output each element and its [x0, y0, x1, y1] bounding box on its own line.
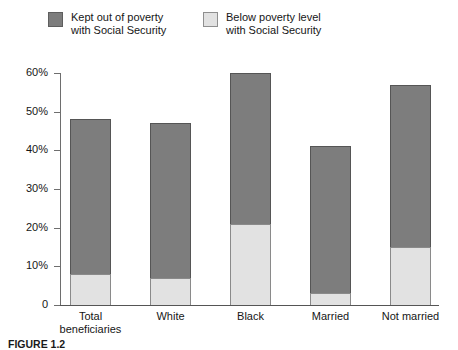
figure-number: FIGURE 1.2	[8, 338, 65, 350]
category-label-line: Not married	[382, 310, 439, 322]
bar-segment-kept-out-of-poverty	[390, 85, 431, 247]
x-axis-category-label: Not married	[351, 310, 458, 323]
bar-group	[310, 146, 351, 305]
bar-segment-below-poverty-level	[390, 247, 431, 305]
y-axis-tick	[54, 73, 60, 74]
bar-group	[150, 123, 191, 305]
figure-caption: FIGURE 1.2	[8, 338, 65, 350]
y-axis-tick-label: 20%	[2, 222, 48, 233]
bar-group	[390, 85, 431, 305]
category-label-line: Black	[237, 310, 264, 322]
y-axis-tick-label: 30%	[2, 183, 48, 194]
y-axis-tick-label: 0	[2, 299, 48, 310]
y-axis-tick-label: 50%	[2, 106, 48, 117]
bar-segment-below-poverty-level	[310, 293, 351, 305]
y-axis-tick-label: 40%	[2, 144, 48, 155]
bar-segment-below-poverty-level	[150, 278, 191, 305]
y-axis-tick	[54, 266, 60, 267]
y-axis-tick	[54, 189, 60, 190]
bar-segment-kept-out-of-poverty	[70, 119, 111, 274]
category-label-line: White	[156, 310, 184, 322]
bar-segment-kept-out-of-poverty	[150, 123, 191, 278]
category-label-line: beneficiaries	[60, 323, 122, 335]
y-axis-tick	[54, 228, 60, 229]
category-label-line: Married	[312, 310, 349, 322]
bar-group	[70, 119, 111, 305]
category-label-line: Total	[79, 310, 102, 322]
bar-segment-below-poverty-level	[70, 274, 111, 305]
bar-segment-kept-out-of-poverty	[230, 73, 271, 224]
y-axis-tick	[54, 150, 60, 151]
y-axis-tick-label: 10%	[2, 260, 48, 271]
bar-segment-kept-out-of-poverty	[310, 146, 351, 293]
y-axis-tick-label: 60%	[2, 67, 48, 78]
bar-group	[230, 73, 271, 305]
y-axis-tick	[54, 112, 60, 113]
bar-segment-below-poverty-level	[230, 224, 271, 305]
y-axis-tick	[54, 305, 60, 306]
